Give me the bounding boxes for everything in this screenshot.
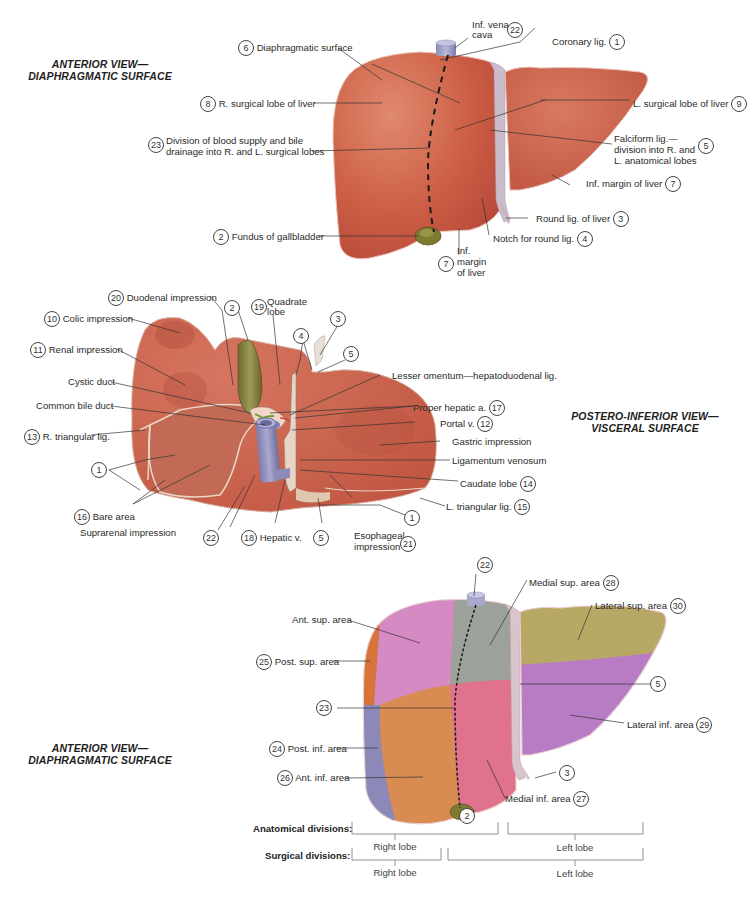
callout-number: 5 [650, 676, 666, 692]
callout-number: 3 [559, 765, 575, 781]
label-ant-inf-area: 26 Ant. inf. area [277, 770, 350, 786]
surgical-divisions-label: Surgical divisions: [265, 850, 350, 861]
label-text: Ant. inf. area [295, 772, 349, 783]
callout-number: 26 [277, 770, 293, 786]
label-post-inf-area: 24 Post. inf. area [269, 741, 347, 757]
label-text: Post. inf. area [288, 743, 347, 754]
callout-number: 22 [477, 557, 493, 573]
label-text: Ant. sup. area [292, 614, 352, 625]
label-text: Medial inf. area [505, 793, 571, 804]
label-text: Post. sup. area [275, 656, 340, 667]
label-medial-inf-area: Medial inf. area 27 [505, 791, 589, 807]
label-lateral-sup-area: Lateral sup. area 30 [595, 598, 686, 614]
anatomical-left-lobe: Left lobe [545, 842, 605, 853]
anatomical-right-lobe: Right lobe [365, 841, 425, 852]
callout-number: 29 [696, 717, 712, 733]
label-post-sup-area: 25 Post. sup. area [256, 654, 339, 670]
label-text: Medial sup. area [529, 577, 600, 588]
callout-number: 30 [670, 598, 686, 614]
label-text: Lateral inf. area [627, 719, 694, 730]
label-text: Lateral sup. area [595, 600, 667, 611]
label-medial-sup-area: Medial sup. area 28 [529, 575, 619, 591]
callout-number: 27 [573, 791, 589, 807]
callout-number: 23 [316, 700, 332, 716]
callout-number: 24 [269, 741, 285, 757]
surgical-right-lobe: Right lobe [365, 867, 425, 878]
liver-segments-illustration [0, 0, 749, 899]
callout-number: 2 [459, 808, 475, 824]
callout-number: 25 [256, 654, 272, 670]
surgical-left-lobe: Left lobe [545, 868, 605, 879]
label-ant-sup-area: Ant. sup. area [292, 614, 352, 625]
label-lateral-inf-area: Lateral inf. area 29 [627, 717, 712, 733]
anatomical-divisions-label: Anatomical divisions: [253, 823, 352, 834]
callout-number: 28 [603, 575, 619, 591]
